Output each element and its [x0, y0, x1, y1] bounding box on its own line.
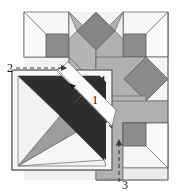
arrow-2-label: 2: [7, 61, 13, 75]
arrow-1-label: 1: [92, 93, 98, 107]
bottom-right-strip: [123, 168, 168, 180]
origami-figure: 1 2 3: [0, 0, 181, 194]
arrow-3-label: 3: [122, 178, 128, 192]
bottom-right-dark-square: [123, 123, 146, 146]
diagram-canvas: 1 2 3: [0, 0, 181, 194]
top-left-dark-square: [46, 34, 69, 57]
top-right-dark-square: [123, 34, 146, 57]
